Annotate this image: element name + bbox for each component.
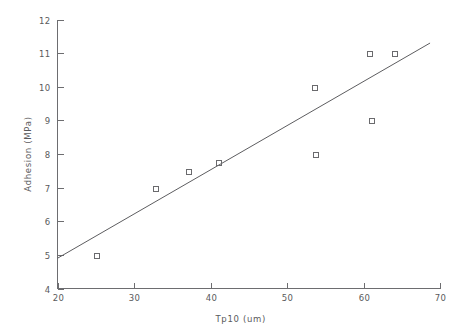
regression-line [58,43,431,258]
y-tick-label: 12 [39,16,51,26]
scatter-plot-figure: 456789101112203040506070Tp10 (um)Adhesio… [0,0,459,330]
data-point-marker [186,169,191,174]
y-tick-label: 6 [45,217,51,227]
y-tick-label: 8 [45,150,51,160]
y-tick-label: 11 [39,49,51,59]
x-tick-label: 60 [359,293,371,303]
x-tick-label: 70 [435,293,447,303]
data-point-marker [153,186,158,191]
y-tick-label: 9 [45,116,51,126]
data-point-marker [369,118,374,123]
data-point-marker [392,51,397,56]
data-point-marker [312,85,317,90]
x-axis-title: Tp10 (um) [214,314,266,324]
y-tick-label: 7 [45,184,51,194]
y-tick-label: 5 [45,251,51,261]
plot-canvas: 456789101112203040506070Tp10 (um)Adhesio… [0,0,459,330]
data-point-marker [94,253,99,258]
x-tick-label: 20 [53,293,65,303]
data-point-marker [367,51,372,56]
y-axis-title: Adhesion (MPa) [23,116,33,191]
y-tick-label: 4 [45,285,51,295]
x-tick-label: 50 [282,293,294,303]
x-tick-label: 40 [206,293,218,303]
y-tick-label: 10 [39,83,51,93]
x-tick-label: 30 [129,293,141,303]
data-point-marker [313,152,318,157]
